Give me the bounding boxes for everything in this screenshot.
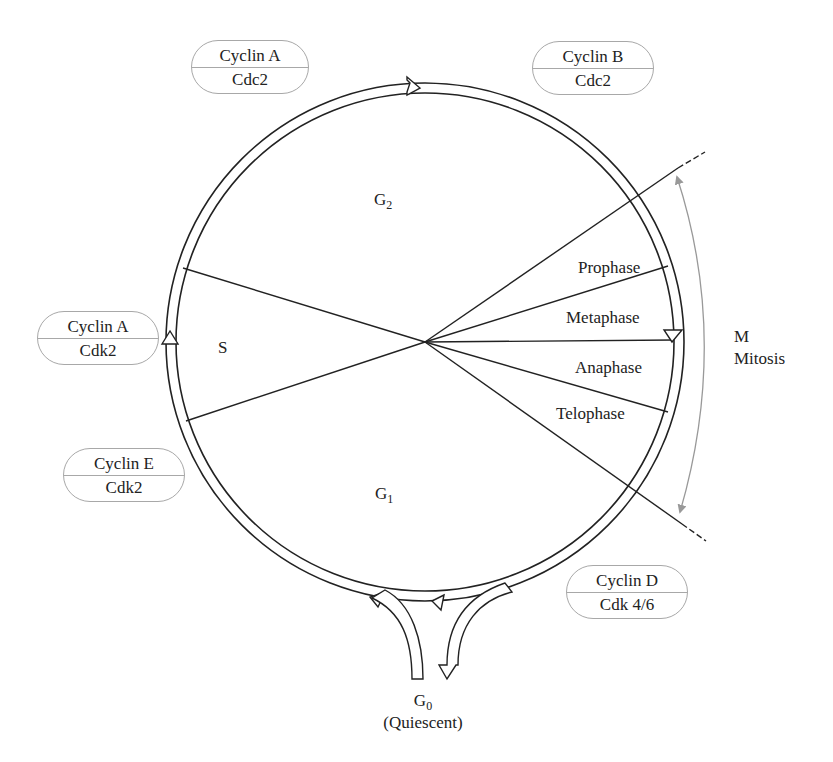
mitosis-span-arrow xyxy=(677,177,704,512)
stage-telophase: Telophase xyxy=(556,404,625,424)
mitosis-label: M Mitosis xyxy=(734,326,785,370)
g0-exit-arc xyxy=(439,583,512,679)
complex-cyclin-d-cdk46: Cyclin D Cdk 4/6 xyxy=(566,565,688,619)
complex-cyclin-a-cdk2: Cyclin A Cdk2 xyxy=(37,311,159,365)
complex-cyclin-a-cdc2: Cyclin A Cdc2 xyxy=(191,40,309,94)
mitosis-boundary-dashes xyxy=(678,152,706,541)
phase-g1-label: G1 xyxy=(375,484,393,504)
stage-metaphase: Metaphase xyxy=(566,308,640,328)
cell-cycle-diagram xyxy=(0,0,833,762)
arrowhead-bottom xyxy=(432,595,444,610)
phase-g2-label: G2 xyxy=(374,190,392,210)
complex-cyclin-e-cdk2: Cyclin E Cdk2 xyxy=(63,448,185,502)
phase-s-label: S xyxy=(218,338,227,358)
complex-cyclin-b-cdc2: Cyclin B Cdc2 xyxy=(532,41,654,95)
phase-g0-label: G0 (Quiescent) xyxy=(368,690,478,734)
stage-anaphase: Anaphase xyxy=(575,358,642,378)
phase-dividers xyxy=(183,168,682,524)
stage-prophase: Prophase xyxy=(578,258,640,278)
